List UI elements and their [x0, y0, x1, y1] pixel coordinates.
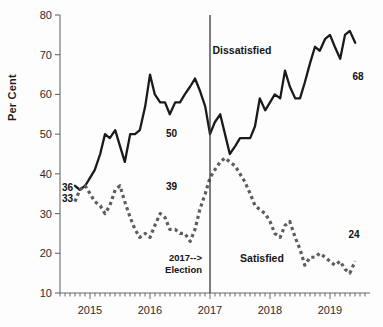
y-axis: 1020304050607080	[40, 9, 60, 299]
election-label-line2: Election	[165, 264, 202, 275]
x-axis-tick-label: 2018	[258, 304, 282, 316]
satisfied-series-label: Satisfied	[240, 252, 284, 264]
dissatisfied-start-value: 36	[62, 182, 74, 193]
data-series-group	[75, 31, 355, 273]
x-axis-tick-label: 2015	[78, 304, 102, 316]
y-axis-tick-label: 80	[40, 9, 52, 21]
x-axis-tick-label: 2017	[198, 304, 222, 316]
dissatisfied-end-value: 68	[352, 71, 364, 82]
annotations-group: 2017-->ElectionDissatisfiedSatisfied3633…	[62, 15, 364, 293]
y-axis-tick-label: 50	[40, 128, 52, 140]
dissatisfied-election-value: 50	[166, 128, 178, 139]
chart-plot-area: 1020304050607080 20152016201720182019 20…	[0, 0, 383, 327]
dissatisfied-series-label: Dissatisfied	[213, 44, 272, 56]
chart-container: Per Cent 1020304050607080 20152016201720…	[0, 0, 383, 327]
x-axis-tick-label: 2019	[318, 304, 342, 316]
satisfied-election-value: 39	[166, 181, 178, 192]
y-axis-tick-label: 20	[40, 247, 52, 259]
y-axis-tick-label: 70	[40, 49, 52, 61]
satisfied-start-value: 33	[62, 193, 74, 204]
y-axis-tick-label: 40	[40, 168, 52, 180]
y-axis-tick-label: 30	[40, 208, 52, 220]
election-label-line1: 2017-->	[169, 252, 202, 263]
series-line-satisfied	[75, 158, 355, 273]
satisfied-end-value: 24	[348, 229, 360, 240]
y-axis-tick-label: 10	[40, 287, 52, 299]
y-axis-tick-label: 60	[40, 88, 52, 100]
x-axis-tick-label: 2016	[138, 304, 162, 316]
x-axis: 20152016201720182019	[60, 293, 370, 316]
